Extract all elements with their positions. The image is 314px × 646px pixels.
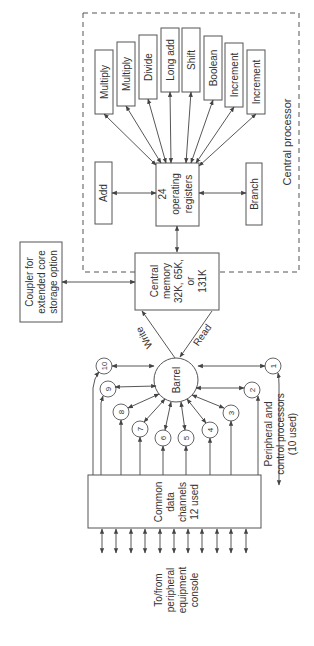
svg-text:131K: 131K <box>197 269 208 293</box>
pp-7: 7 <box>132 421 148 437</box>
svg-text:registers: registers <box>183 175 194 213</box>
svg-text:Boolean: Boolean <box>208 50 219 87</box>
svg-text:Coupler for: Coupler for <box>24 257 35 307</box>
cdc6600-block-diagram: Central processor Multiply Multiply Divi… <box>0 0 314 646</box>
central-processor-label: Central processor <box>281 98 293 185</box>
pp-2: 2 <box>244 382 260 398</box>
svg-text:Increment: Increment <box>229 53 240 98</box>
svg-text:24: 24 <box>157 188 168 200</box>
functional-unit-long-add: Long add <box>161 28 179 92</box>
svg-text:6: 6 <box>159 435 168 440</box>
common-data-channels-box: Common data channels 12 used <box>88 475 261 528</box>
svg-text:Add: Add <box>98 184 109 202</box>
branch-unit-box: Branch <box>246 163 262 225</box>
svg-text:channels: channels <box>177 482 188 522</box>
svg-text:5: 5 <box>182 435 191 440</box>
pp-8: 8 <box>113 404 129 420</box>
svg-text:To/from: To/from <box>153 573 164 606</box>
operating-registers-box: 24 operating registers <box>156 163 199 226</box>
svg-text:control processors: control processors <box>275 393 286 475</box>
svg-text:(10 used): (10 used) <box>287 413 298 455</box>
svg-text:peripheral: peripheral <box>165 568 176 612</box>
barrel-circle: Barrel <box>154 358 198 402</box>
svg-text:Common: Common <box>153 482 164 523</box>
svg-text:Central processor: Central processor <box>281 98 293 185</box>
functional-unit-boolean: Boolean <box>204 36 222 100</box>
svg-text:operating: operating <box>170 173 181 215</box>
svg-text:extended core: extended core <box>36 250 47 314</box>
functional-unit-shift: Shift <box>182 28 200 92</box>
svg-text:Peripheral and: Peripheral and <box>263 401 274 466</box>
svg-text:Long add: Long add <box>165 39 176 81</box>
svg-text:9: 9 <box>104 386 113 391</box>
svg-text:or: or <box>185 276 196 286</box>
svg-text:2: 2 <box>248 387 257 392</box>
pp-4: 4 <box>202 422 218 438</box>
svg-text:12 used: 12 used <box>189 484 200 520</box>
functional-unit-increment-1: Increment <box>225 43 243 107</box>
read-label: Read <box>191 322 214 348</box>
pp-10: 10 <box>96 358 112 374</box>
svg-text:data: data <box>165 492 176 512</box>
svg-text:7: 7 <box>136 426 145 431</box>
svg-text:storage option: storage option <box>48 250 59 313</box>
svg-text:Divide: Divide <box>143 53 154 81</box>
functional-unit-multiply-1: Multiply <box>95 50 113 114</box>
add-unit-box: Add <box>95 162 112 224</box>
pp-6: 6 <box>155 430 171 446</box>
functional-unit-divide: Divide <box>139 35 157 99</box>
functional-unit-multiply-2: Multiply <box>117 42 135 106</box>
svg-text:memory: memory <box>161 263 172 299</box>
external-equipment-label: To/from peripheral equipment console <box>153 566 200 613</box>
central-memory-box: Central memory 32K, 65K, or 131K <box>135 253 219 310</box>
svg-text:Branch: Branch <box>249 178 260 210</box>
external-io-arrows <box>102 529 246 553</box>
functional-unit-increment-2: Increment <box>247 50 265 114</box>
svg-text:32K, 65K,: 32K, 65K, <box>173 259 184 303</box>
svg-text:4: 4 <box>206 427 215 432</box>
pp-3: 3 <box>223 405 239 421</box>
svg-text:10: 10 <box>100 362 109 370</box>
coupler-box: Coupler for extended core storage option <box>20 242 62 322</box>
peripheral-processors-label: Peripheral and control processors (10 us… <box>263 393 298 475</box>
svg-text:equipment: equipment <box>177 566 188 613</box>
svg-text:Increment: Increment <box>251 60 262 105</box>
svg-text:Shift: Shift <box>186 50 197 70</box>
svg-text:Multiply: Multiply <box>99 65 110 99</box>
svg-text:Multiply: Multiply <box>121 57 132 91</box>
svg-text:Central: Central <box>149 265 160 297</box>
svg-text:1: 1 <box>269 363 278 368</box>
pp-5: 5 <box>178 430 194 446</box>
svg-text:Barrel: Barrel <box>171 367 182 394</box>
write-label: Write <box>133 325 154 351</box>
svg-text:console: console <box>189 572 200 607</box>
pp-1: 1 <box>265 358 281 374</box>
svg-text:3: 3 <box>227 410 236 415</box>
pp-9: 9 <box>100 381 116 397</box>
svg-text:8: 8 <box>117 409 126 414</box>
